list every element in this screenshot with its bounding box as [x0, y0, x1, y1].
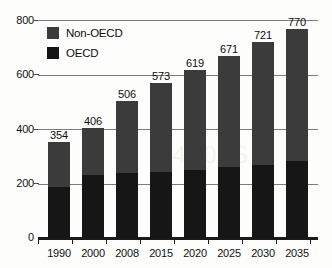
- legend-label: Non-OECD: [66, 27, 123, 39]
- gridline-400: [38, 129, 318, 130]
- x-tick-mark: [106, 238, 107, 244]
- bar-segment-non-oecd[interactable]: [286, 29, 308, 161]
- y-tick-label: 400: [4, 124, 34, 135]
- x-tick-mark: [72, 238, 73, 244]
- bar-segment-non-oecd[interactable]: [218, 56, 240, 167]
- gridline-600: [38, 75, 318, 76]
- legend-item-oecd[interactable]: OECD: [47, 44, 147, 61]
- x-tick-mark: [174, 238, 175, 244]
- bar-segment-non-oecd[interactable]: [116, 101, 138, 174]
- x-tick-label: 2035: [277, 247, 317, 259]
- bar-segment-non-oecd[interactable]: [252, 42, 274, 165]
- legend: Non-OECD OECD: [47, 24, 147, 64]
- x-tick-mark: [310, 238, 311, 244]
- x-tick-mark: [38, 238, 39, 244]
- x-tick-mark: [140, 238, 141, 244]
- bar-segment-non-oecd[interactable]: [150, 83, 172, 172]
- y-axis: 800 600 400 200 0: [0, 0, 34, 268]
- bar-total-label: 354: [50, 130, 68, 141]
- bar-segment-oecd[interactable]: [150, 172, 172, 238]
- y-tick-label: 0: [4, 232, 34, 243]
- bar-segment-oecd[interactable]: [48, 187, 70, 238]
- x-tick-mark: [242, 238, 243, 244]
- bar-segment-non-oecd[interactable]: [48, 142, 70, 187]
- bar-total-label: 573: [152, 71, 170, 82]
- bar-total-label: 721: [254, 30, 272, 41]
- legend-label: OECD: [66, 47, 98, 59]
- bar-segment-oecd[interactable]: [82, 175, 104, 238]
- bar-segment-oecd[interactable]: [218, 167, 240, 238]
- legend-item-non-oecd[interactable]: Non-OECD: [47, 24, 147, 41]
- legend-swatch-icon: [47, 27, 59, 39]
- bar-segment-oecd[interactable]: [252, 165, 274, 238]
- bar-segment-oecd[interactable]: [184, 170, 206, 238]
- bar-segment-oecd[interactable]: [116, 173, 138, 238]
- bar-segment-non-oecd[interactable]: [184, 70, 206, 170]
- x-tick-mark: [276, 238, 277, 244]
- legend-swatch-icon: [47, 47, 59, 59]
- bar-total-label: 506: [118, 89, 136, 100]
- bar-total-label: 770: [288, 17, 306, 28]
- y-tick-label: 600: [4, 69, 34, 80]
- y-tick-label: 800: [4, 15, 34, 26]
- bar-total-label: 619: [186, 58, 204, 69]
- x-tick-mark: [208, 238, 209, 244]
- chart-container: 354 406 506 800 600 400 200 0 354 406 50…: [0, 0, 332, 268]
- gridline-200: [38, 184, 318, 185]
- bar-segment-non-oecd[interactable]: [82, 128, 104, 175]
- bar-segment-oecd[interactable]: [286, 161, 308, 238]
- y-tick-label: 200: [4, 178, 34, 189]
- gridline-800: [38, 20, 318, 21]
- bar-total-label: 671: [220, 44, 238, 55]
- bar-total-label: 406: [84, 116, 102, 127]
